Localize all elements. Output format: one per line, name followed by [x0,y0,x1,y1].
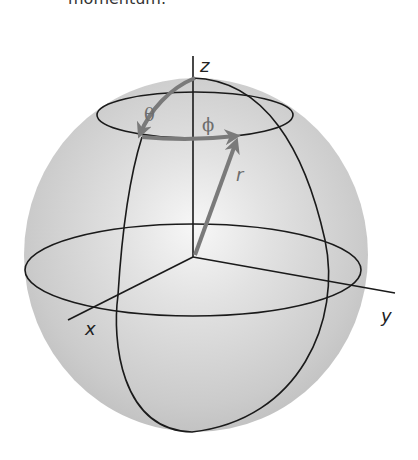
y-axis-label: y [380,305,392,326]
x-axis-label: x [84,318,96,339]
phi-label: ϕ [202,114,214,135]
spherical-coordinates-diagram: z x y θ ϕ r [0,0,418,460]
theta-label: θ [144,104,155,125]
z-axis-label: z [199,55,210,76]
